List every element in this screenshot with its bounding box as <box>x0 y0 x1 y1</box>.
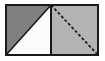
geometric-figure <box>0 0 105 61</box>
figure-container <box>0 0 105 61</box>
